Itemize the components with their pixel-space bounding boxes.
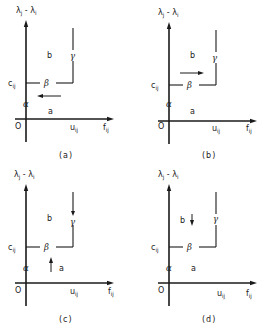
kilter-diagram-figure: λj - λi b γ cij β α a O uij fij (a) λj -… xyxy=(0,0,266,334)
region-b-label: b xyxy=(47,51,52,60)
u-ij-label: uij xyxy=(217,289,226,300)
beta-label: β xyxy=(43,242,49,252)
beta-label: β xyxy=(186,242,192,252)
panel-a xyxy=(15,20,114,142)
y-axis-label: λj - λi xyxy=(16,6,37,17)
y-axis-label: λj - λi xyxy=(158,8,179,19)
x-axis-label: fij xyxy=(246,289,252,300)
region-a-label: a xyxy=(191,264,196,273)
c-ij-label: cij xyxy=(8,243,16,254)
alpha-label: α xyxy=(166,263,172,273)
panel-b xyxy=(158,22,257,144)
gamma-label: γ xyxy=(212,53,218,63)
y-axis-label: λj - λi xyxy=(14,170,35,181)
x-axis-label: fij xyxy=(246,124,252,135)
x-axis-label: fij xyxy=(108,287,114,298)
arrow-down-on-gamma-icon xyxy=(71,211,75,216)
beta-label: β xyxy=(43,78,49,88)
u-ij-label: uij xyxy=(70,123,79,134)
panel-caption: (d) xyxy=(202,315,216,324)
arrow-up-icon xyxy=(49,257,53,272)
panel-d xyxy=(158,184,257,306)
origin-label: O xyxy=(158,286,164,295)
x-axis-label: fij xyxy=(103,123,109,134)
region-b-label: b xyxy=(180,216,185,225)
alpha-label: α xyxy=(166,99,172,109)
origin-label: O xyxy=(158,122,164,131)
gamma-label: γ xyxy=(213,214,219,224)
panel-caption: (a) xyxy=(59,151,73,160)
u-ij-label: uij xyxy=(70,287,79,298)
c-ij-label: cij xyxy=(151,243,159,254)
panel-c xyxy=(15,184,114,306)
origin-label: O xyxy=(15,286,21,295)
region-b-label: b xyxy=(47,214,52,223)
panel-b-labels: λj - λi b γ cij β α a O uij fij (b) xyxy=(151,8,252,160)
panel-caption: (b) xyxy=(202,151,216,160)
region-a-label: a xyxy=(59,264,64,273)
u-ij-label: uij xyxy=(212,124,221,135)
region-a-label: a xyxy=(190,107,195,116)
gamma-label: γ xyxy=(70,51,76,61)
gamma-label: γ xyxy=(70,217,76,227)
origin-label: O xyxy=(15,122,21,131)
alpha-label: α xyxy=(23,263,29,273)
c-ij-label: cij xyxy=(8,79,16,90)
region-b-label: b xyxy=(190,51,195,60)
alpha-label: α xyxy=(23,99,29,109)
c-ij-label: cij xyxy=(151,81,159,92)
arrow-down-icon xyxy=(190,214,194,226)
y-axis-label: λj - λi xyxy=(158,170,179,181)
arrow-left-icon xyxy=(37,94,61,98)
panel-caption: (c) xyxy=(59,315,73,324)
beta-label: β xyxy=(186,80,192,90)
arrow-right-icon xyxy=(180,71,204,75)
region-a-label: a xyxy=(48,107,53,116)
